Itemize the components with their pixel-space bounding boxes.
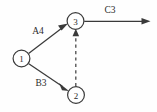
diagram-canvas: 1 2 3 A4 B3 C3 bbox=[0, 0, 157, 112]
node-2[interactable]: 2 bbox=[68, 87, 85, 104]
edge-label-b3: B3 bbox=[35, 78, 46, 88]
edge-2-to-3-dummy bbox=[73, 29, 80, 86]
network-diagram: 1 2 3 A4 B3 C3 bbox=[0, 0, 157, 112]
node-3-label: 3 bbox=[73, 17, 78, 27]
edge-label-c3: C3 bbox=[104, 5, 115, 15]
node-1[interactable]: 1 bbox=[13, 50, 30, 67]
node-1-label: 1 bbox=[19, 54, 24, 64]
edge-3-outgoing bbox=[84, 18, 150, 25]
arrowhead-icon bbox=[142, 18, 151, 25]
node-2-label: 2 bbox=[74, 91, 79, 101]
node-3[interactable]: 3 bbox=[67, 13, 84, 30]
arrowhead-icon bbox=[59, 83, 69, 91]
edge-label-a4: A4 bbox=[32, 26, 44, 36]
